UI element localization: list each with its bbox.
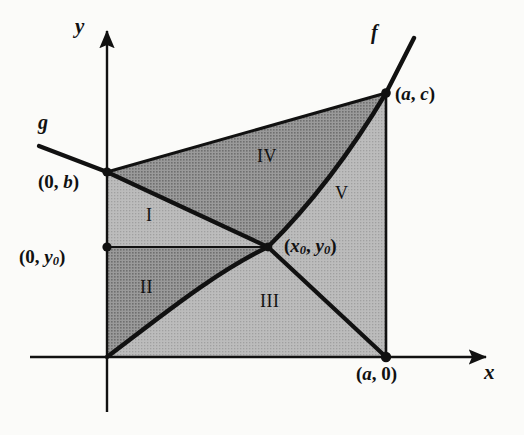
var-c: c: [420, 83, 428, 104]
dot-point-0-b: [102, 167, 111, 176]
region-V-label: V: [335, 184, 349, 202]
point-a-0-label: (a, 0): [356, 364, 397, 383]
dot-point-a-0: [381, 352, 391, 362]
point-0-y0-label: (0, y0): [19, 247, 65, 268]
comma: ,: [306, 235, 316, 256]
comma: ,: [372, 363, 382, 384]
paren-close: ): [391, 363, 397, 384]
var-y: y: [44, 246, 52, 267]
paren-open: (0,: [19, 246, 44, 267]
paren-close: ): [73, 171, 79, 192]
figure-canvas: y x f g (0, b) (0, y0) (x0, y0) (a, c) (…: [0, 0, 524, 435]
var-x: x: [290, 235, 300, 256]
var-a: a: [401, 83, 411, 104]
dot-point-0-y0: [102, 242, 111, 251]
paren-close: ): [429, 83, 435, 104]
comma: ,: [411, 83, 421, 104]
curve-g-label: g: [38, 112, 48, 132]
point-0-b-label: (0, b): [38, 172, 79, 191]
var-b: b: [63, 171, 73, 192]
dot-point-a-c: [381, 88, 391, 98]
diagram-svg: [0, 0, 524, 435]
zero: 0: [381, 363, 391, 384]
point-a-c-label: (a, c): [395, 84, 435, 103]
region-I-label: I: [146, 206, 153, 224]
region-IV-label: IV: [257, 147, 277, 165]
x-axis-label: x: [484, 362, 495, 383]
paren-open: (0,: [38, 171, 63, 192]
var-y: y: [316, 235, 324, 256]
point-x0-y0-label: (x0, y0): [284, 236, 337, 257]
y-axis-label: y: [75, 16, 84, 37]
region-III-label: III: [260, 292, 279, 310]
var-a: a: [362, 363, 372, 384]
region-II-label: II: [140, 278, 153, 296]
curve-f-label: f: [371, 22, 378, 42]
dot-point-x0-y0: [264, 243, 273, 252]
paren-close: ): [59, 246, 65, 267]
paren-close: ): [330, 235, 336, 256]
